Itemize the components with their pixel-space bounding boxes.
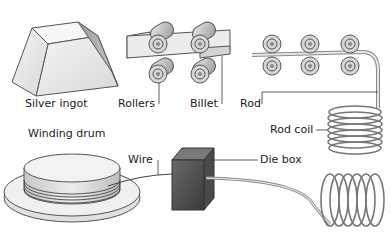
label-rollers: Rollers	[118, 98, 155, 110]
label-rod-coil: Rod coil	[270, 124, 313, 136]
label-silver-ingot: Silver ingot	[25, 98, 87, 110]
wire-drawing-diagram: Silver ingot Rollers Billet Rod Rod coil…	[0, 0, 392, 237]
label-winding-drum: Winding drum	[28, 128, 105, 140]
spiral-coil-icon	[321, 174, 384, 226]
rod-coil-icon	[316, 106, 382, 154]
label-rod: Rod	[240, 98, 261, 110]
billet-rollers-icon	[127, 19, 230, 104]
winding-drum-icon	[4, 154, 140, 222]
label-die-box: Die box	[260, 154, 302, 166]
label-wire: Wire	[128, 154, 153, 166]
diagram-artwork	[0, 0, 392, 237]
rod-rollers-icon	[252, 35, 378, 108]
silver-ingot-icon	[12, 22, 118, 96]
label-billet: Billet	[190, 98, 218, 110]
